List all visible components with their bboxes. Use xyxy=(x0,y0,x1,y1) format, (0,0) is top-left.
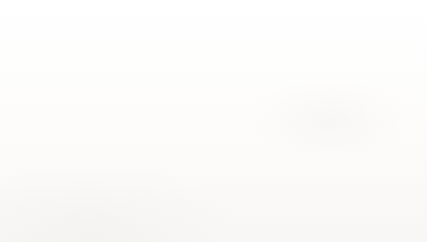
y-tick-60 xyxy=(42,22,49,23)
y-tick-label-20: 20 xyxy=(4,143,38,154)
y-tick-label-60: 60 xyxy=(4,16,38,27)
y-tick-40 xyxy=(42,85,49,86)
legend-label-trigg: Trigg (n=37) xyxy=(341,18,391,28)
bar-female xyxy=(185,74,270,212)
y-tick-label-10: 10 xyxy=(4,174,38,185)
y-tick-50 xyxy=(42,54,49,55)
y-tick-10 xyxy=(42,180,49,181)
y-axis-title: % NISP xyxy=(11,76,23,136)
bar-chart-figure: 60 50 40 30 20 10 0 % NISP Male Female I… xyxy=(0,0,427,242)
x-tick-right-edge xyxy=(406,213,407,219)
bar-male xyxy=(65,31,150,212)
legend-swatch-trigg xyxy=(319,18,331,29)
x-tick-label-female: Female xyxy=(188,221,268,233)
y-tick-label-50: 50 xyxy=(4,48,38,59)
x-tick-female-indeterminate xyxy=(287,213,288,219)
x-tick-label-indeterminate: Indeterminate xyxy=(297,221,397,233)
legend-box: Trigg (n=37) xyxy=(313,13,401,33)
y-tick-label-0: 0 xyxy=(4,206,38,217)
x-tick-male-female xyxy=(167,213,168,219)
x-tick-left-edge xyxy=(48,213,49,219)
x-axis-line xyxy=(48,212,407,213)
x-tick-label-male: Male xyxy=(68,221,148,233)
chart-legend: Trigg (n=37) xyxy=(313,13,401,33)
y-tick-30 xyxy=(42,117,49,118)
y-tick-20 xyxy=(42,149,49,150)
